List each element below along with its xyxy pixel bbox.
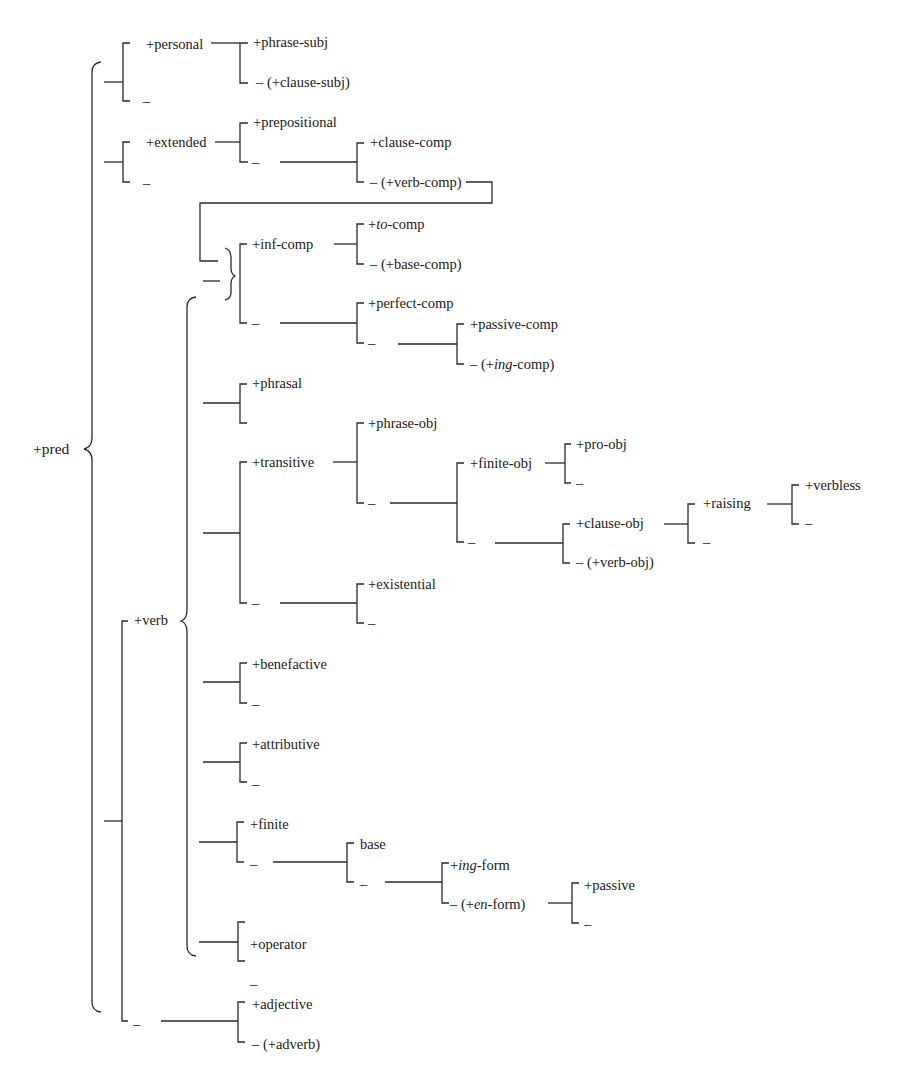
node-passive-comp: +passive-comp: [470, 316, 558, 332]
node-attr-minus: –: [252, 776, 259, 792]
node-base-comp: – (+base-comp): [370, 256, 462, 272]
node-phrase-obj: +phrase-obj: [368, 415, 437, 431]
node-benefactive: +benefactive: [252, 656, 327, 672]
node-passive: +passive: [584, 877, 635, 893]
node-trans-minus: –: [252, 595, 259, 611]
node-verb-obj: – (+verb-obj): [576, 554, 654, 570]
node-clause-comp: +clause-comp: [370, 134, 451, 150]
node-finite-minus: –: [468, 534, 475, 550]
node-personal-minus: –: [143, 93, 150, 109]
node-perfect-minus: –: [368, 335, 375, 351]
node-bene-minus: –: [252, 696, 259, 712]
node-clause-obj: +clause-obj: [576, 515, 644, 531]
tree-connector-lines: [0, 0, 907, 1083]
node-extended-minus: –: [143, 175, 150, 191]
pred-brace: [84, 62, 101, 1012]
feature-tree-diagram: +pred +personal–+phrase-subj– (+clause-s…: [0, 0, 907, 1083]
node-verbless: +verbless: [805, 477, 861, 493]
node-raising-minus: –: [703, 534, 710, 550]
node-to-comp: +to-comp: [368, 216, 425, 232]
node-verb-comp: – (+verb-comp): [370, 174, 462, 190]
node-finite-obj: +finite-obj: [470, 455, 532, 471]
node-phrase-subj: +phrase-subj: [253, 34, 328, 50]
node-adverb: – (+adverb): [252, 1036, 320, 1052]
node-extended: +extended: [146, 134, 207, 150]
node-exist-minus: –: [368, 615, 375, 631]
node-personal: +personal: [146, 36, 203, 52]
node-operator-minus: –: [250, 976, 257, 992]
node-inf-minus: –: [252, 315, 259, 331]
node-pro-minus: –: [576, 475, 583, 491]
node-phrasal: +phrasal: [252, 375, 302, 391]
node-operator: +operator: [250, 936, 307, 952]
node-ing-form: +ing-form: [450, 857, 510, 873]
node-prepositional: +prepositional: [253, 114, 337, 130]
node-en-form: – (+en-form): [450, 896, 525, 912]
node-ing-comp: – (+ing-comp): [470, 356, 554, 372]
root-node-pred: +pred: [33, 441, 69, 457]
inf-brace: [225, 248, 235, 300]
node-clause-subj: – (+clause-subj): [256, 74, 350, 90]
node-prep-minus: –: [252, 154, 259, 170]
node-transitive: +transitive: [252, 454, 314, 470]
node-base: base: [360, 836, 386, 852]
verb-brace: [181, 297, 196, 956]
node-finite-verb-minus: –: [250, 856, 257, 872]
node-passive-minus: –: [584, 916, 591, 932]
node-raising: +raising: [703, 495, 751, 511]
node-pro-obj: +pro-obj: [576, 436, 627, 452]
node-attributive: +attributive: [252, 736, 320, 752]
node-existential: +existential: [368, 576, 436, 592]
node-verbless-minus: –: [805, 515, 812, 531]
node-adjective: +adjective: [252, 996, 313, 1012]
node-trans-mid-minus: –: [368, 495, 375, 511]
node-finite: +finite: [250, 816, 289, 832]
node-verb: +verb: [134, 612, 168, 628]
node-inf-comp: +inf-comp: [252, 236, 313, 252]
node-base-minus: –: [360, 876, 367, 892]
node-pred-minus: –: [133, 1016, 140, 1032]
node-perfect-comp: +perfect-comp: [368, 295, 453, 311]
